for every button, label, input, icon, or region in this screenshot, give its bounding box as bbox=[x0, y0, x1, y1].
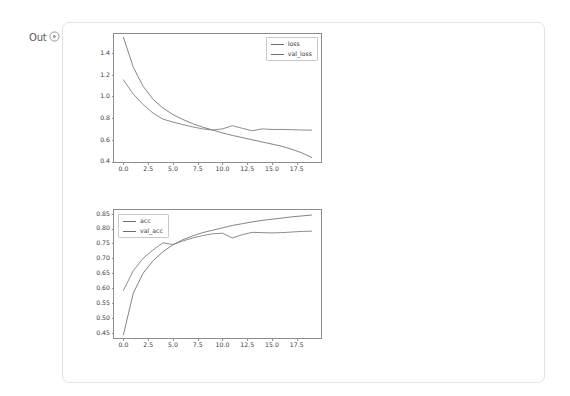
legend-line-swatch bbox=[271, 54, 284, 55]
x-tick-label: 10.0 bbox=[216, 342, 230, 348]
circled-play-icon[interactable] bbox=[49, 31, 60, 44]
legend-item: val_loss bbox=[271, 51, 312, 57]
y-tick-label: 0.85 bbox=[96, 210, 110, 216]
legend-line-swatch bbox=[271, 44, 284, 45]
y-tick-label: 0.4 bbox=[100, 158, 110, 164]
x-tick-label: 7.5 bbox=[193, 342, 203, 348]
x-tick-label: 12.5 bbox=[240, 166, 254, 172]
legend-item-label: val_acc bbox=[140, 228, 163, 234]
y-tick-label: 0.70 bbox=[96, 255, 110, 261]
y-tick-label: 0.60 bbox=[96, 285, 110, 291]
x-tick-label: 15.0 bbox=[265, 342, 279, 348]
y-tick-label: 1.4 bbox=[100, 50, 110, 56]
series-line-val_acc bbox=[123, 231, 311, 290]
out-prompt[interactable]: Out bbox=[29, 31, 60, 44]
accuracy-chart-panel: 0.450.500.550.600.650.700.750.800.85 0.0… bbox=[80, 202, 340, 370]
loss-chart-legend: loss val_loss bbox=[266, 37, 318, 61]
y-tick-label: 0.6 bbox=[100, 137, 110, 143]
legend-line-swatch bbox=[123, 221, 136, 222]
matplotlib-figure: 0.40.60.81.01.21.4 0.02.55.07.510.012.51… bbox=[80, 26, 340, 371]
x-tick-label: 15.0 bbox=[265, 166, 279, 172]
accuracy-chart-axes: 0.450.500.550.600.650.700.750.800.85 0.0… bbox=[113, 209, 322, 339]
y-tick-label: 0.8 bbox=[100, 115, 110, 121]
out-prompt-label: Out bbox=[29, 33, 47, 43]
accuracy-chart-legend: acc val_acc bbox=[118, 214, 169, 238]
x-tick-label: 0.0 bbox=[118, 166, 128, 172]
y-tick-label: 0.45 bbox=[96, 330, 110, 336]
loss-chart-panel: 0.40.60.81.01.21.4 0.02.55.07.510.012.51… bbox=[80, 26, 340, 194]
legend-item-label: loss bbox=[288, 41, 300, 47]
legend-item-label: acc bbox=[140, 218, 151, 224]
loss-chart-axes: 0.40.60.81.01.21.4 0.02.55.07.510.012.51… bbox=[113, 33, 322, 163]
legend-item: loss bbox=[271, 41, 312, 47]
y-tick-label: 1.0 bbox=[100, 93, 110, 99]
x-tick-label: 10.0 bbox=[216, 166, 230, 172]
x-tick-label: 17.5 bbox=[290, 166, 304, 172]
x-tick-label: 12.5 bbox=[240, 342, 254, 348]
y-tick-label: 0.65 bbox=[96, 270, 110, 276]
legend-line-swatch bbox=[123, 231, 136, 232]
x-tick-label: 2.5 bbox=[143, 342, 153, 348]
y-tick-label: 0.75 bbox=[96, 240, 110, 246]
y-tick-label: 0.80 bbox=[96, 225, 110, 231]
y-tick-label: 0.50 bbox=[96, 315, 110, 321]
x-tick-label: 5.0 bbox=[168, 342, 178, 348]
output-screenshot: Out 0.40.60.81.01.21.4 0.02.55.07.510.01… bbox=[0, 0, 570, 396]
series-line-val_loss bbox=[123, 80, 311, 131]
x-tick-label: 5.0 bbox=[168, 166, 178, 172]
x-tick-label: 0.0 bbox=[118, 342, 128, 348]
y-tick-label: 1.2 bbox=[100, 72, 110, 78]
legend-item: val_acc bbox=[123, 228, 163, 234]
y-tick-label: 0.55 bbox=[96, 300, 110, 306]
x-tick-label: 7.5 bbox=[193, 166, 203, 172]
x-tick-label: 17.5 bbox=[290, 342, 304, 348]
legend-item-label: val_loss bbox=[288, 51, 312, 57]
x-tick-label: 2.5 bbox=[143, 166, 153, 172]
legend-item: acc bbox=[123, 218, 163, 224]
